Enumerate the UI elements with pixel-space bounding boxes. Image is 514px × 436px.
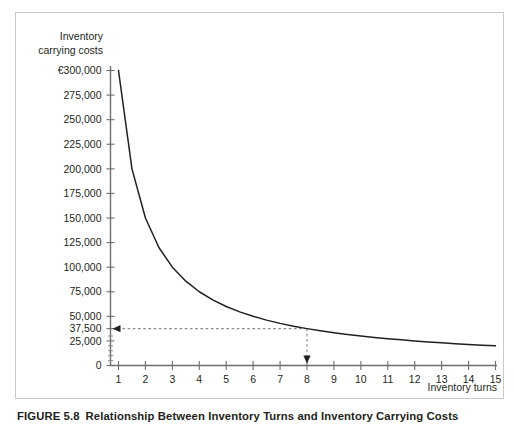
figure-caption: FIGURE 5.8Relationship Between Inventory…: [17, 410, 507, 422]
figure-container: 025,00037,50050,00075,000100,000125,0001…: [0, 0, 514, 436]
chart-frame: [15, 12, 504, 399]
figure-caption-text: Relationship Between Inventory Turns and…: [86, 410, 459, 422]
figure-number: FIGURE 5.8: [17, 410, 80, 422]
